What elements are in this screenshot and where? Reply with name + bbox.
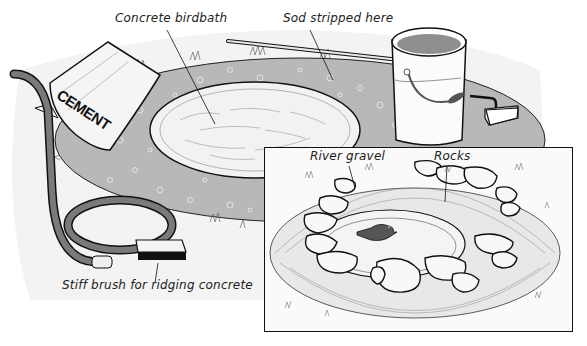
inset-scene	[265, 148, 571, 330]
label-concrete-birdbath: Concrete birdbath	[115, 11, 227, 25]
birdbath-illustration: Concrete birdbath Sod stripped here Stif…	[0, 0, 587, 346]
inset-finished-birdbath: River gravel Rocks	[264, 147, 573, 332]
label-stiff-brush: Stiff brush for ridging concrete	[62, 278, 253, 292]
stiff-brush	[136, 240, 186, 260]
label-sod-stripped: Sod stripped here	[283, 11, 393, 25]
label-river-gravel: River gravel	[310, 149, 385, 163]
bucket	[392, 28, 466, 145]
label-rocks: Rocks	[434, 149, 470, 163]
